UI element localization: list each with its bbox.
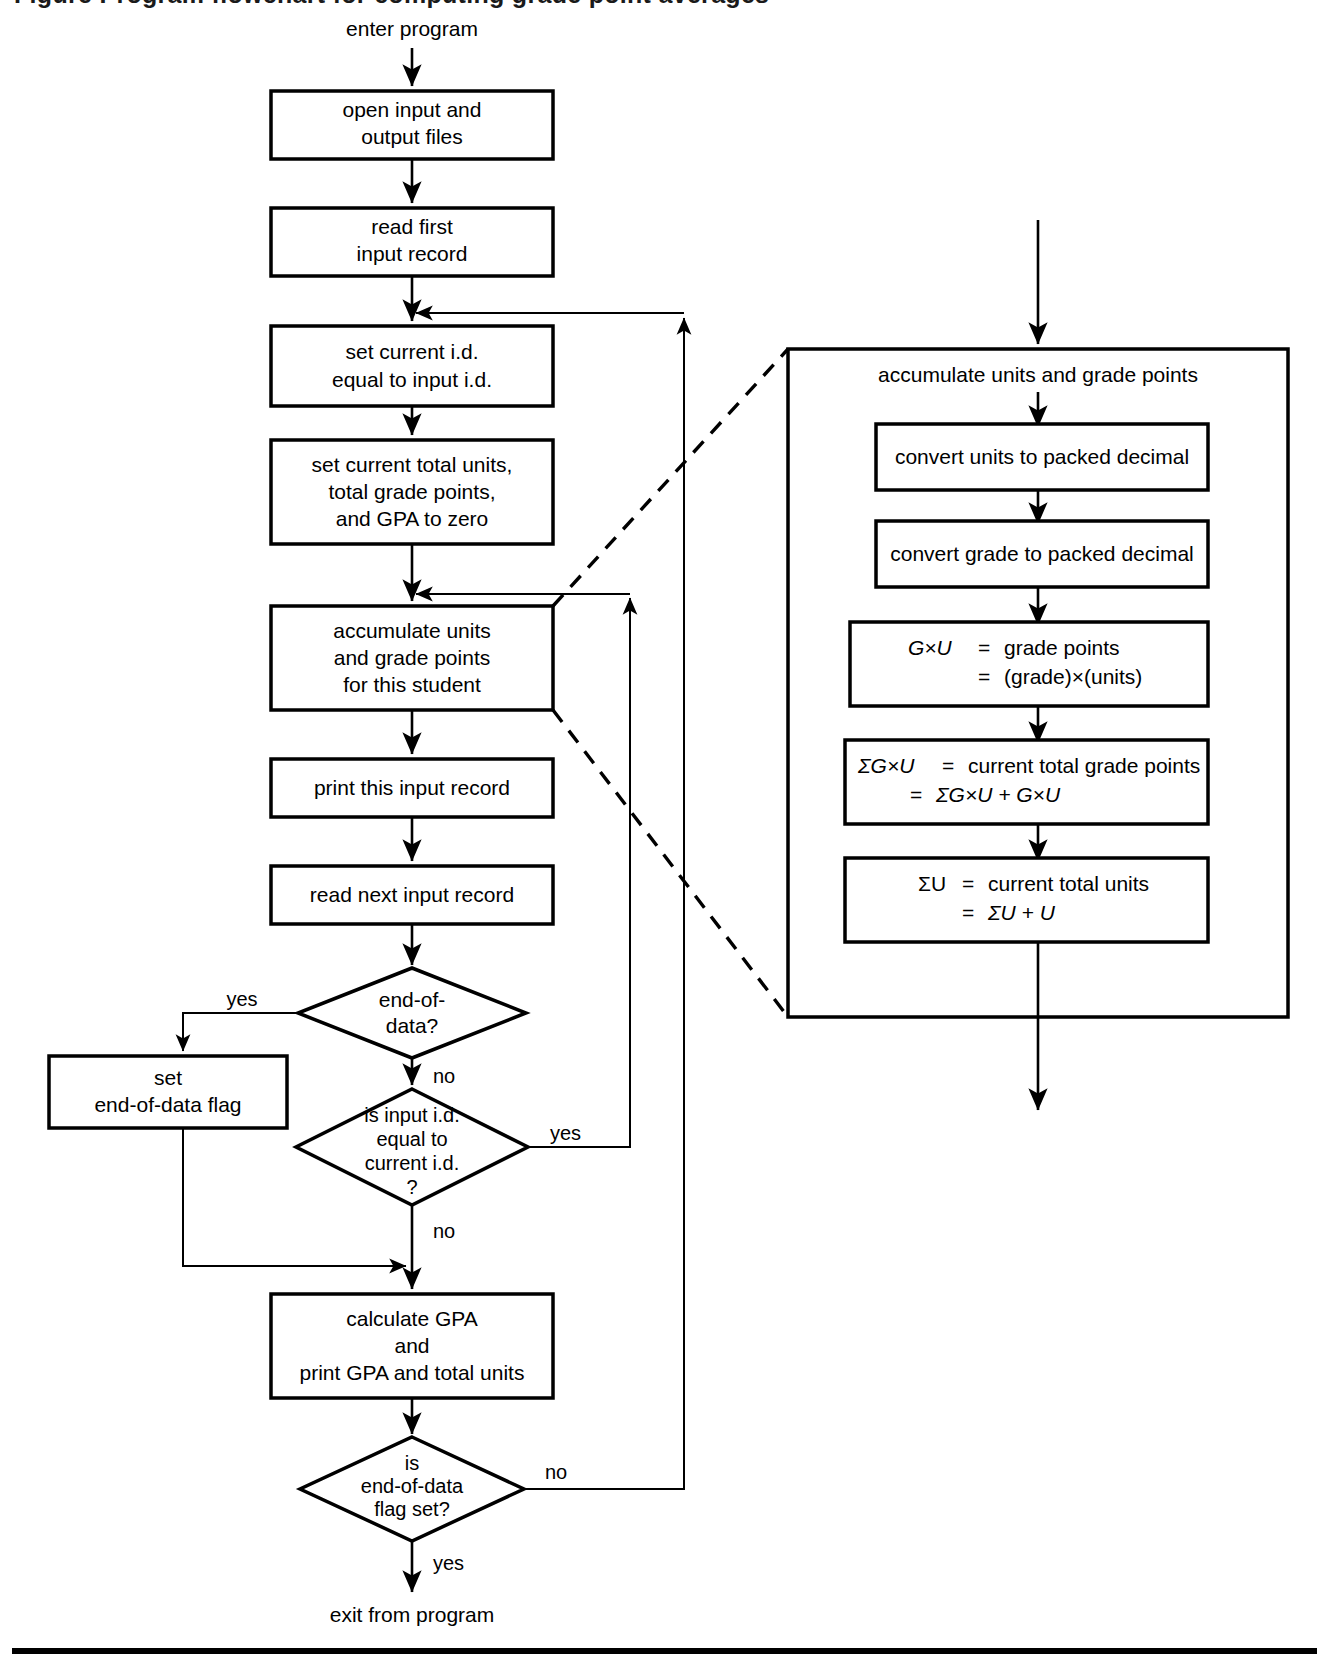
box-sum-units-row-1-lhs: ΣU	[918, 872, 946, 895]
decision-eod-flag-set-yes-label: yes	[433, 1552, 464, 1574]
decision-id-equal-line-1: is input i.d.	[364, 1104, 460, 1126]
box-open-files-line-1: open input and	[343, 98, 482, 121]
box-set-current-id	[271, 326, 553, 406]
box-read-next-line-1: read next input record	[310, 883, 514, 906]
bottom-horizontal-rule	[12, 1648, 1317, 1654]
connector-end-of-data-yes-to-set-flag	[183, 1013, 298, 1051]
box-accumulate-line-2: and grade points	[334, 646, 490, 669]
box-sum-units	[845, 858, 1208, 942]
box-sum-units-row-1-eq: =	[962, 872, 974, 895]
box-sum-grade-points-row-1-lhs: ΣG×U	[857, 754, 915, 777]
box-read-first-line-2: input record	[357, 242, 468, 265]
box-grade-points-row-2-eq: =	[978, 665, 990, 688]
decision-eod-flag-set-line-3: flag set?	[374, 1498, 450, 1520]
box-grade-points-row-2-rhs: (grade)×(units)	[1004, 665, 1142, 688]
decision-eod-flag-set-line-1: is	[405, 1452, 419, 1474]
box-grade-points	[850, 622, 1208, 706]
decision-end-of-data-yes-label: yes	[226, 988, 257, 1010]
decision-id-equal-no-label: no	[433, 1220, 455, 1242]
box-calc-gpa-line-2: and	[394, 1334, 429, 1357]
box-calc-gpa-line-1: calculate GPA	[346, 1307, 478, 1330]
box-grade-points-row-1-eq: =	[978, 636, 990, 659]
box-open-files-line-2: output files	[361, 125, 463, 148]
decision-id-equal-line-2: equal to	[376, 1128, 447, 1150]
box-convert-grade-line-1: convert grade to packed decimal	[890, 542, 1194, 565]
box-set-current-id-line-2: equal to input i.d.	[332, 368, 492, 391]
box-set-current-id-line-1: set current i.d.	[345, 340, 478, 363]
decision-id-equal-line-3: current i.d.	[365, 1152, 459, 1174]
decision-end-of-data-line-1: end-of-	[379, 988, 446, 1011]
box-sum-units-row-2-rhs: ΣU + U	[987, 901, 1056, 924]
decision-id-equal-yes-label: yes	[550, 1122, 581, 1144]
decision-eod-flag-set-no-label: no	[545, 1461, 567, 1483]
box-sum-grade-points-row-1-rhs: current total grade points	[968, 754, 1200, 777]
box-accumulate-line-1: accumulate units	[333, 619, 491, 642]
box-sum-grade-points-row-2-rhs: ΣG×U + G×U	[935, 783, 1061, 806]
decision-eod-flag-set-line-2: end-of-data	[361, 1475, 464, 1497]
box-grade-points-row-1-lhs: G×U	[908, 636, 953, 659]
dashed-expand-bottom	[553, 710, 788, 1017]
flowchart-canvas: enter program open input and output file…	[0, 0, 1341, 1671]
terminator-enter-label: enter program	[346, 17, 478, 40]
decision-end-of-data-line-2: data?	[386, 1014, 439, 1037]
decision-end-of-data-no-label: no	[433, 1065, 455, 1087]
terminator-exit-label: exit from program	[330, 1603, 495, 1626]
box-convert-units-line-1: convert units to packed decimal	[895, 445, 1189, 468]
decision-end-of-data	[298, 968, 526, 1058]
decision-id-equal-line-4: ?	[406, 1176, 417, 1198]
box-sum-grade-points-row-2-eq: =	[910, 783, 922, 806]
dashed-expand-top	[553, 349, 788, 606]
box-set-eod-flag-line-2: end-of-data flag	[94, 1093, 241, 1116]
box-sum-units-row-1-rhs: current total units	[988, 872, 1149, 895]
box-accumulate-line-3: for this student	[343, 673, 481, 696]
box-read-first-line-1: read first	[371, 215, 453, 238]
box-zero-totals-line-3: and GPA to zero	[336, 507, 489, 530]
box-zero-totals-line-1: set current total units,	[312, 453, 513, 476]
box-sum-grade-points	[845, 740, 1208, 824]
box-grade-points-row-1-rhs: grade points	[1004, 636, 1120, 659]
box-sum-grade-points-row-1-eq: =	[942, 754, 954, 777]
figure-page: Figure Program flowchart for computing g…	[0, 0, 1341, 1671]
box-calc-gpa-line-3: print GPA and total units	[300, 1361, 525, 1384]
box-print-record-line-1: print this input record	[314, 776, 510, 799]
detail-panel-header: accumulate units and grade points	[878, 363, 1198, 386]
box-set-eod-flag-line-1: set	[154, 1066, 182, 1089]
box-zero-totals-line-2: total grade points,	[329, 480, 496, 503]
box-sum-units-row-2-eq: =	[962, 901, 974, 924]
